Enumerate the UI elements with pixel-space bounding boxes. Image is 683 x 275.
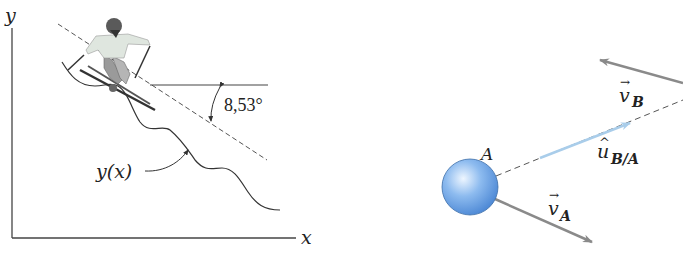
angle-arc — [211, 87, 220, 121]
particle-a-label: A — [479, 144, 493, 164]
vb-accent: → — [620, 75, 630, 89]
vb-label: v → B — [619, 75, 644, 110]
relative-velocity-diagram: A v → B u ^ B/A v → A — [442, 60, 683, 242]
curve-leader-arrow — [145, 150, 188, 171]
va-label: v → A — [548, 188, 571, 224]
particle-a-sphere — [442, 159, 498, 215]
slope-dashed-line — [58, 24, 267, 160]
terrain-curve — [62, 62, 280, 210]
uba-accent: ^ — [599, 135, 610, 150]
curve-label: y(x) — [95, 160, 132, 182]
vb-subscript: B — [631, 94, 644, 110]
y-axis-label: y — [4, 4, 16, 26]
figure-canvas: y x 8,53° y(x) — [0, 0, 683, 275]
uba-label: u ^ B/A — [597, 135, 639, 167]
va-subscript: A — [558, 208, 571, 224]
angle-label: 8,53° — [224, 95, 263, 115]
velocity-vector-va — [495, 199, 592, 242]
skier-illustration — [68, 18, 155, 110]
x-axis-label: x — [301, 226, 312, 248]
uba-subscript: B/A — [610, 151, 639, 167]
skier-diagram: y x 8,53° y(x) — [4, 4, 312, 248]
velocity-vector-vb — [600, 60, 683, 83]
va-accent: → — [549, 188, 559, 202]
